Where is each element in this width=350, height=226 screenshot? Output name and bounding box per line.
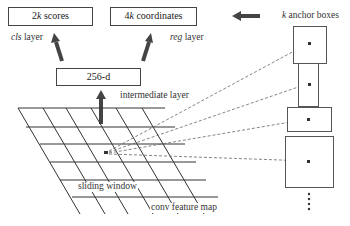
intermediate-layer-label: intermediate layer bbox=[120, 91, 189, 101]
reg-output-label: 4k coordinates bbox=[110, 11, 197, 21]
conv-feature-map-grid bbox=[18, 108, 218, 214]
left-arrow bbox=[232, 11, 260, 21]
feature-map-label: conv feature map bbox=[150, 203, 218, 213]
reg-arrow bbox=[143, 33, 153, 61]
sliding-window-label: sliding window bbox=[77, 182, 138, 192]
sliding-window-point bbox=[104, 151, 108, 154]
cls-output-label: 2k scores bbox=[8, 11, 93, 21]
cls-arrow bbox=[51, 33, 62, 61]
reg-layer-label: reg layer bbox=[170, 33, 204, 43]
anchor-boxes-label: k anchor boxes bbox=[282, 11, 339, 21]
anchor-boxes bbox=[286, 27, 334, 188]
anchor-projection-lines bbox=[109, 43, 309, 161]
intermediate-box-label: 256-d bbox=[56, 72, 141, 82]
ellipsis-dots bbox=[308, 193, 310, 210]
cls-layer-label: cls layer bbox=[11, 33, 43, 43]
